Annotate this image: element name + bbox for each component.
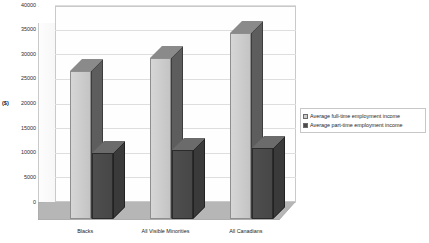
bar-column [92, 141, 125, 219]
gridline [55, 5, 296, 6]
bar-column [172, 138, 205, 219]
y-axis-tick-label: 40000 [21, 2, 36, 9]
y-axis-tick-label: 20000 [21, 100, 36, 107]
bar-side-face [113, 141, 125, 219]
bar-front-face [252, 148, 273, 219]
y-axis-tick-label: 35000 [21, 26, 36, 33]
bar-side-face [273, 136, 285, 219]
bar-front-face [150, 58, 171, 219]
bar-side-face [193, 138, 205, 219]
x-axis-category-label: All Visible Minorities [125, 228, 205, 234]
bar-column [252, 136, 285, 219]
x-axis-category-label: Blacks [45, 228, 125, 234]
bar-front-face [92, 153, 113, 219]
y-axis-tick-label: 15000 [21, 125, 36, 132]
bar-front-face [172, 150, 193, 219]
bar-front-face [70, 71, 91, 219]
plot-left-wall [38, 23, 55, 219]
y-axis-ticks: 0500010000150002000025000300003500040000 [0, 0, 36, 243]
x-axis-category-label: All Canadians [206, 228, 286, 234]
y-axis-tick-label: 0 [33, 199, 36, 206]
bar-chart: 0500010000150002000025000300003500040000… [0, 0, 429, 243]
chart-legend: Average full-time employment incomeAvera… [300, 108, 426, 133]
y-axis-title: ($) [2, 100, 9, 107]
legend-item-label: Average full-time employment income [310, 113, 400, 119]
bar-front-face [230, 33, 251, 219]
y-axis-tick-label: 5000 [24, 174, 36, 181]
legend-item: Average part-time employment income [303, 121, 423, 129]
y-axis-tick-label: 30000 [21, 51, 36, 58]
legend-swatch-icon [303, 123, 308, 128]
legend-item-label: Average part-time employment income [310, 122, 402, 128]
y-axis-tick-label: 25000 [21, 75, 36, 82]
y-axis-tick-label: 10000 [21, 149, 36, 156]
legend-swatch-icon [303, 114, 308, 119]
plot-left-wall-top-edge [38, 6, 56, 24]
legend-item: Average full-time employment income [303, 112, 423, 120]
